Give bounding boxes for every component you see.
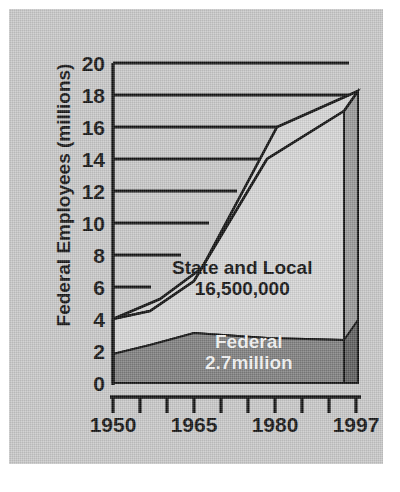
chart-panel: Federal Employees (millions) 20 18 16 14…	[9, 9, 383, 464]
y-tick-label-10: 10	[65, 213, 105, 234]
y-tick-label-20: 20	[65, 53, 105, 74]
x-tick-label-1965: 1965	[171, 413, 218, 437]
y-tick-label-14: 14	[65, 149, 105, 170]
y-tick-label-2: 2	[65, 341, 105, 362]
y-tick-label-18: 18	[65, 85, 105, 106]
y-tick-label-0: 0	[65, 373, 105, 394]
chart-figure: Federal Employees (millions) 20 18 16 14…	[0, 0, 400, 492]
x-tick-label-1950: 1950	[90, 413, 137, 437]
x-tick-label-1997: 1997	[333, 413, 380, 437]
federal-annotation-line2: 2.7million	[205, 353, 293, 374]
state-and-local-annotation-line1: State and Local	[172, 257, 312, 278]
y-tick-label-12: 12	[65, 181, 105, 202]
x-tick-label-1980: 1980	[252, 413, 299, 437]
y-tick-label-16: 16	[65, 117, 105, 138]
x-tick-labels: 1950 1965 1980 1997	[9, 395, 383, 435]
y-tick-label-4: 4	[65, 309, 105, 330]
federal-annotation-line1: Federal	[215, 331, 283, 352]
state-and-local-annotation-line2: 16,500,000	[172, 279, 312, 300]
federal-annotation: Federal 2.7million	[205, 332, 293, 373]
y-tick-label-6: 6	[65, 277, 105, 298]
y-tick-label-8: 8	[65, 245, 105, 266]
state-local-front-face	[113, 111, 344, 354]
state-and-local-annotation: State and Local 16,500,000	[172, 258, 312, 299]
